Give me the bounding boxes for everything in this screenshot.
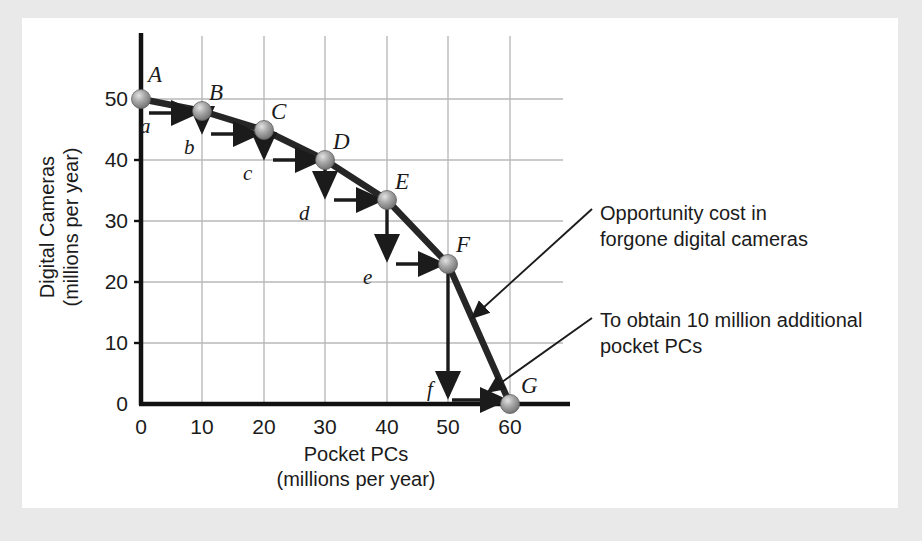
step-label-c: c bbox=[243, 161, 252, 186]
y-tick-10: 10 bbox=[88, 331, 128, 355]
y-tick-50: 50 bbox=[88, 87, 128, 111]
leader-additional-pocket-pcs bbox=[488, 318, 592, 392]
annotation-additional-pocket-pcs-line2: pocket PCs bbox=[600, 333, 702, 359]
x-tick-0: 0 bbox=[111, 415, 171, 439]
x-axis-title-line1: Pocket PCs bbox=[206, 443, 506, 466]
y-axis-title-line2: (millions per year) bbox=[60, 92, 83, 362]
marker-E bbox=[378, 191, 397, 210]
step-label-d: d bbox=[299, 201, 310, 226]
marker-D bbox=[316, 151, 335, 170]
step-label-b: b bbox=[184, 135, 195, 160]
x-tick-50: 50 bbox=[418, 415, 478, 439]
y-axis-title-line1: Digital Cameras bbox=[36, 92, 59, 362]
annotation-opportunity-cost-line1: Opportunity cost in bbox=[600, 200, 767, 226]
point-label-C: C bbox=[271, 99, 286, 125]
x-tick-60: 60 bbox=[480, 415, 540, 439]
step-label-f: f bbox=[427, 377, 433, 402]
x-tick-20: 20 bbox=[234, 415, 294, 439]
point-label-D: D bbox=[333, 129, 350, 155]
grid-horizontal bbox=[141, 99, 563, 343]
point-label-F: F bbox=[456, 232, 470, 258]
x-tick-30: 30 bbox=[295, 415, 355, 439]
point-label-E: E bbox=[395, 169, 409, 195]
point-label-G: G bbox=[521, 373, 538, 399]
y-tick-20: 20 bbox=[88, 270, 128, 294]
step-label-e: e bbox=[363, 265, 372, 290]
x-tick-40: 40 bbox=[357, 415, 417, 439]
x-axis-title-line2: (millions per year) bbox=[206, 468, 506, 491]
y-tick-40: 40 bbox=[88, 148, 128, 172]
point-label-A: A bbox=[148, 62, 162, 88]
leader-opportunity-cost bbox=[472, 209, 592, 318]
x-tick-10: 10 bbox=[172, 415, 232, 439]
marker-F bbox=[439, 255, 458, 274]
marker-A bbox=[132, 90, 151, 109]
annotation-additional-pocket-pcs-line1: To obtain 10 million additional bbox=[600, 307, 862, 333]
y-tick-0: 0 bbox=[88, 392, 128, 416]
marker-G bbox=[501, 395, 520, 414]
grid-vertical bbox=[202, 36, 510, 404]
y-tick-30: 30 bbox=[88, 209, 128, 233]
annotation-opportunity-cost-line2: forgone digital cameras bbox=[600, 226, 808, 252]
point-label-B: B bbox=[209, 80, 223, 106]
step-label-a: a bbox=[140, 114, 151, 139]
